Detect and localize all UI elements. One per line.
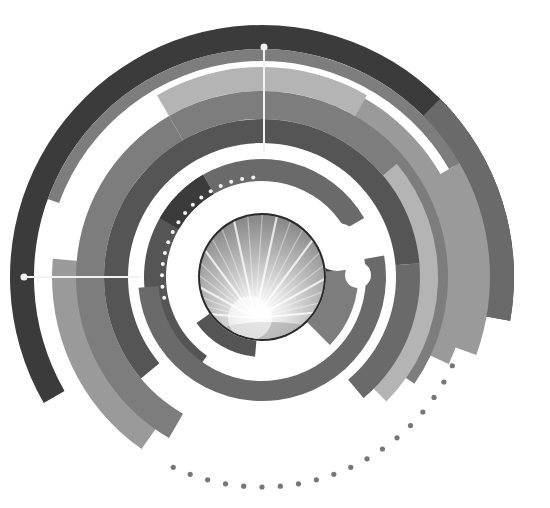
outer-dot [259,484,264,489]
inner-dot [229,180,233,184]
inner-dot [191,203,195,207]
outer-dot [408,423,413,428]
inner-dot [163,251,167,255]
small-white-circle [345,262,371,288]
outer-dot [314,477,319,482]
outer-dot [441,379,446,384]
inner-dot [166,240,170,244]
inner-dot [176,220,180,224]
outer-dot [223,481,228,486]
outer-dot [188,472,193,477]
inner-dot [171,230,175,234]
concentric-arc-graphic [0,0,550,508]
outer-dot [450,363,455,368]
outer-dot [171,465,176,470]
outer-dot [296,481,301,486]
inner-dot [219,184,223,188]
inner-dot [183,211,187,215]
outer-dot [241,484,246,489]
inner-dot [160,285,164,289]
inner-dot [160,273,164,277]
outer-dot [205,477,210,482]
outer-dot [431,395,436,400]
outer-dot [278,484,283,489]
vertical-pointer-dot [261,44,268,51]
inner-dot [209,189,213,193]
inner-dot [161,262,165,266]
inner-dot [251,175,255,179]
outer-dot [364,456,369,461]
inner-dot [240,177,244,181]
horizontal-pointer-dot [21,274,28,281]
outer-dot [331,472,336,477]
outer-dot [348,465,353,470]
outer-dot [380,446,385,451]
inner-dot [162,296,166,300]
outer-dot [394,435,399,440]
inner-dot [199,195,203,199]
outer-dot [420,409,425,414]
